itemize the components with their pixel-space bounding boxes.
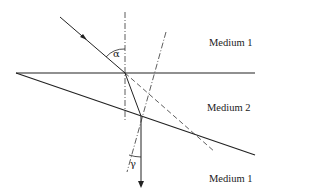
medium-bottom-label: Medium 1 (209, 173, 252, 184)
normal-wedge-line (127, 32, 166, 172)
medium-top-label: Medium 1 (209, 37, 252, 48)
exit-arrow-icon (138, 181, 144, 188)
angle-gamma-label: γ (130, 158, 136, 169)
angle-alpha-label: α (113, 48, 120, 59)
angle-gamma-arc (129, 155, 141, 157)
refracted-ray (125, 73, 141, 116)
extended-incident-dashed-line (125, 73, 215, 152)
incident-ray (60, 17, 125, 73)
medium-middle-label: Medium 2 (207, 102, 250, 113)
